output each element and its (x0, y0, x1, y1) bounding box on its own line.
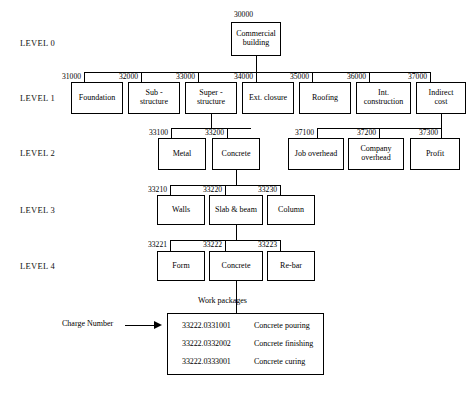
node-profit[interactable]: Profit (410, 138, 460, 170)
node-re-bar[interactable]: Re-bar (267, 251, 315, 281)
node-code-33220: 33220 (203, 185, 222, 194)
work-package-description: Concrete finishing (254, 339, 313, 348)
node-code-33223: 33223 (258, 240, 277, 249)
connector-stub-33220 (225, 185, 226, 195)
node-code-37300: 37300 (419, 128, 438, 137)
connector-stub-33230 (280, 185, 281, 195)
node-job-overhead[interactable]: Job overhead (288, 138, 344, 170)
node-super-structure[interactable]: Super - structure (185, 82, 237, 114)
node-ext-closure[interactable]: Ext. closure (242, 82, 294, 114)
work-package-row[interactable]: 33222.0331001 Concrete pouring (182, 321, 323, 330)
node-label-33223: Re-bar (280, 262, 302, 271)
level-label-1: LEVEL 1 (20, 93, 55, 103)
node-slab-and-beam[interactable]: Slab & beam (209, 195, 263, 225)
node-code-33000: 33000 (176, 72, 195, 81)
charge-number-label: Charge Number (62, 319, 113, 328)
node-label-35000: Roofing (312, 94, 338, 103)
connector-33220-down (236, 225, 237, 240)
node-int-construction[interactable]: Int. construction (356, 82, 411, 114)
node-roofing[interactable]: Roofing (299, 82, 351, 114)
connector-33000-down (211, 114, 212, 128)
node-code-33200: 33200 (205, 128, 224, 137)
connector-stub-36000 (369, 72, 370, 82)
node-sub-structure[interactable]: Sub - structure (128, 82, 180, 114)
node-metal[interactable]: Metal (158, 138, 206, 170)
node-form[interactable]: Form (157, 251, 205, 281)
node-concrete-level2[interactable]: Concrete (212, 138, 260, 170)
work-package-row[interactable]: 33222.0332002 Concrete finishing (182, 339, 323, 348)
connector-stub-37300 (441, 128, 442, 138)
node-company-overhead[interactable]: Company overhead (348, 138, 404, 170)
node-code-33222: 33222 (203, 240, 222, 249)
work-packages-box[interactable]: 33222.0331001 Concrete pouring 33222.033… (167, 313, 324, 375)
node-label-33220: Slab & beam (215, 206, 257, 215)
node-code-34000: 34000 (234, 72, 253, 81)
connector-stub-33223 (280, 240, 281, 251)
work-package-description: Concrete pouring (254, 321, 310, 330)
node-label-37100: Job overhead (295, 150, 337, 159)
node-label-33000: Super - structure (197, 89, 225, 107)
work-package-code: 33222.0331001 (182, 321, 254, 330)
work-package-code: 33222.0333001 (182, 357, 254, 366)
connector-stub-33221 (170, 240, 171, 251)
node-code-35000: 35000 (290, 72, 309, 81)
connector-stub-35000 (312, 72, 313, 82)
work-package-description: Concrete curing (254, 357, 305, 366)
node-label-37300: Profit (426, 150, 444, 159)
node-concrete-level4[interactable]: Concrete (209, 251, 263, 281)
charge-number-arrow-shaft (125, 325, 157, 326)
node-code-30000: 30000 (234, 10, 253, 19)
node-code-33210: 33210 (148, 185, 167, 194)
node-foundation[interactable]: Foundation (71, 82, 123, 114)
level-label-4: LEVEL 4 (20, 261, 55, 271)
connector-stub-33222 (225, 240, 226, 251)
node-label-37200: Company overhead (360, 145, 391, 163)
work-package-row[interactable]: 33222.0333001 Concrete curing (182, 357, 323, 366)
node-label-33200: Concrete (222, 150, 251, 159)
node-code-33100: 33100 (149, 128, 168, 137)
node-label-31000: Foundation (79, 94, 115, 103)
level-label-3: LEVEL 3 (20, 205, 55, 215)
connector-33200-down (236, 170, 237, 185)
node-label-33222: Concrete (222, 262, 251, 271)
node-label-33230: Column (278, 206, 304, 215)
node-commercial-building[interactable]: Commercial building (231, 22, 281, 56)
node-label-30000: Commercial building (236, 30, 276, 48)
level-label-2: LEVEL 2 (20, 148, 55, 158)
node-label-33221: Form (172, 262, 189, 271)
node-code-36000: 36000 (347, 72, 366, 81)
node-code-37200: 37200 (357, 128, 376, 137)
connector-stub-33200 (227, 128, 228, 138)
connector-stub-37200 (379, 128, 380, 138)
node-label-32000: Sub - structure (140, 89, 168, 107)
node-label-37000: Indirect cost (429, 89, 454, 107)
node-code-32000: 32000 (119, 72, 138, 81)
connector-stub-31000 (84, 72, 85, 82)
node-label-34000: Ext. closure (249, 94, 287, 103)
node-code-37000: 37000 (408, 72, 427, 81)
work-package-code: 33222.0332002 (182, 339, 254, 348)
connector-stub-32000 (141, 72, 142, 82)
connector-stub-33210 (170, 185, 171, 195)
node-code-31000: 31000 (62, 72, 81, 81)
wbs-diagram: LEVEL 0 LEVEL 1 LEVEL 2 LEVEL 3 LEVEL 4 … (0, 0, 472, 400)
node-code-33221: 33221 (148, 240, 167, 249)
node-walls[interactable]: Walls (157, 195, 205, 225)
connector-stub-33000 (198, 72, 199, 82)
work-packages-caption: Work packages (198, 296, 247, 305)
connector-level0-down (256, 56, 257, 72)
connector-stub-37000 (430, 72, 431, 82)
charge-number-arrow-icon (154, 321, 162, 329)
node-column[interactable]: Column (267, 195, 315, 225)
node-code-33230: 33230 (258, 185, 277, 194)
connector-stub-34000 (256, 72, 257, 82)
node-code-37100: 37100 (295, 128, 314, 137)
connector-stub-37100 (317, 128, 318, 138)
connector-37000-down (441, 114, 442, 128)
node-indirect-cost[interactable]: Indirect cost (416, 82, 466, 114)
level-label-0: LEVEL 0 (20, 38, 55, 48)
connector-stub-33100 (171, 128, 172, 138)
node-label-33210: Walls (172, 206, 190, 215)
node-label-33100: Metal (173, 150, 192, 159)
node-label-36000: Int. construction (364, 89, 404, 107)
